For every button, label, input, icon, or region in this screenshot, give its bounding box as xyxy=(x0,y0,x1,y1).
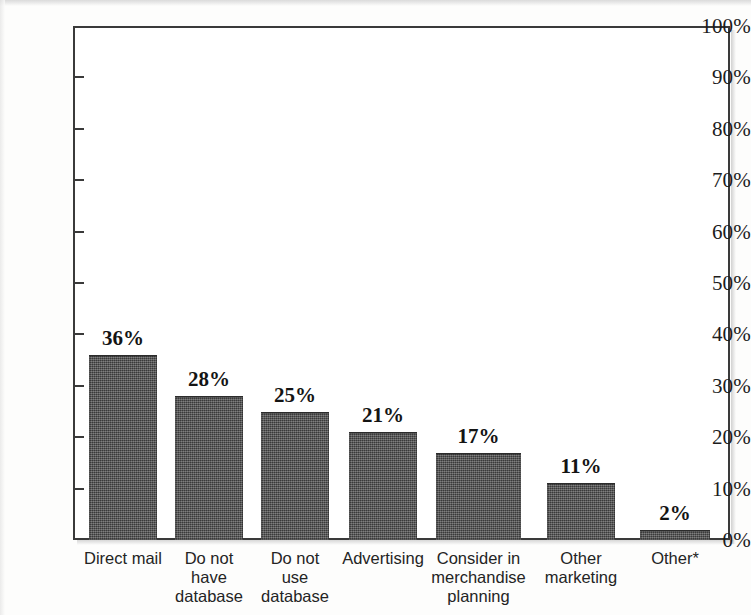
x-axis-category-label: Consider in merchandise planning xyxy=(424,549,534,606)
bar-value-label: 21% xyxy=(323,405,443,426)
bar-series: 36%28%25%21%17%11%2% xyxy=(0,0,751,615)
bar-value-label: 2% xyxy=(615,503,735,524)
bar xyxy=(640,530,710,540)
bar xyxy=(547,483,615,540)
bar xyxy=(349,432,417,540)
bar xyxy=(89,355,157,540)
bar-value-label: 36% xyxy=(63,328,183,349)
bar xyxy=(175,396,243,540)
bar-value-label: 25% xyxy=(235,385,355,406)
bar xyxy=(261,412,329,541)
x-axis-category-label: Other* xyxy=(620,549,730,568)
x-axis-category-label: Advertising xyxy=(328,549,438,568)
bar-value-label: 17% xyxy=(419,426,539,447)
bar-value-label: 11% xyxy=(521,456,641,477)
bar xyxy=(436,453,521,540)
bar-chart-figure: 100%90%80%70%60%50%40%30%20%10%0% 36%28%… xyxy=(0,0,751,615)
